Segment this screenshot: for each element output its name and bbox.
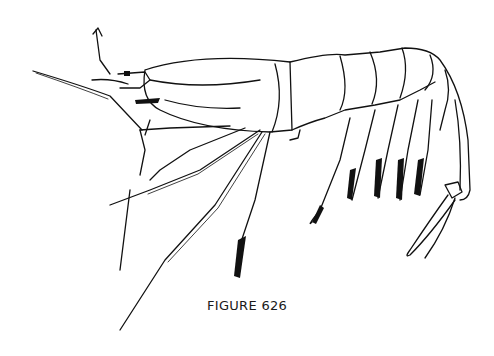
figure-caption: FIGURE 626: [207, 298, 287, 313]
figure: FIGURE 626: [0, 0, 494, 356]
